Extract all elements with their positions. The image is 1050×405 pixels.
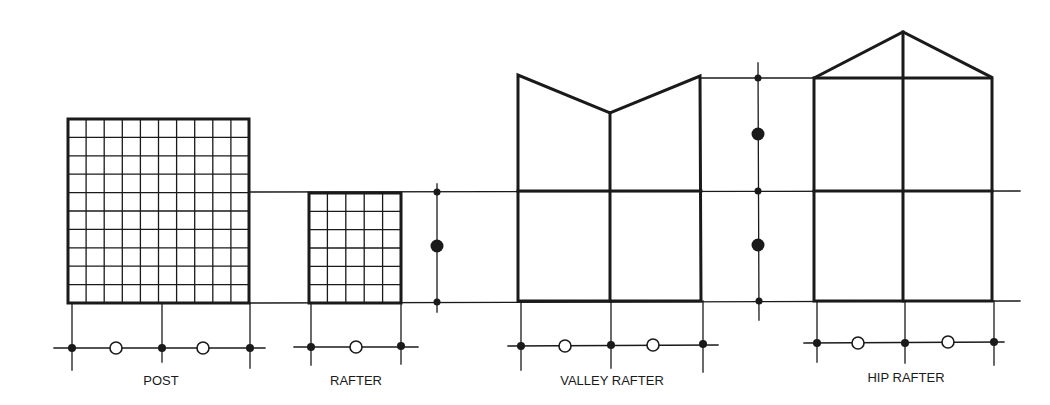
label-post: POST xyxy=(143,373,178,388)
label-valley-rafter: VALLEY RAFTER xyxy=(560,373,664,388)
valley-rafter-frame xyxy=(518,75,701,301)
filled-dot-markers xyxy=(68,75,998,353)
open-circle-markers xyxy=(110,336,954,354)
rafter-grid xyxy=(309,193,401,303)
label-hip-rafter: HIP RAFTER xyxy=(867,370,944,385)
hip-rafter-frame xyxy=(814,32,992,301)
post-grid xyxy=(68,119,249,303)
label-rafter: RAFTER xyxy=(330,373,382,388)
framing-diagram: POST RAFTER VALLEY RAFTER HIP RAFTER xyxy=(0,0,1050,405)
